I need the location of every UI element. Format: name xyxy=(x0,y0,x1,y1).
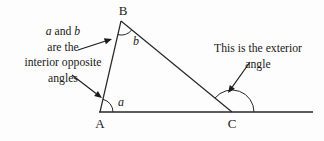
annotation-line: a and b xyxy=(46,25,81,38)
annotation-line: interior opposite xyxy=(25,56,102,69)
pointer-shaft xyxy=(78,41,105,50)
arrowhead-icon xyxy=(228,85,235,93)
angle-label-b: b xyxy=(133,34,139,48)
interior-opposite-angles-note: a and bare theinterior oppositeangles xyxy=(25,25,102,85)
angle-b-arc xyxy=(118,30,132,35)
annotation-line: are the xyxy=(47,41,78,54)
annotation-text-layer: a and bare theinterior oppositeanglesThi… xyxy=(25,25,303,85)
angle-a-arc xyxy=(103,99,113,112)
arrowhead-icon xyxy=(104,38,112,44)
vertex-label-c: C xyxy=(228,116,237,131)
exterior-angle-arc xyxy=(215,90,254,112)
pointer-to-exterior-angle xyxy=(228,62,250,93)
pointer-to-angle-b xyxy=(78,38,112,50)
pointer-shaft xyxy=(232,62,250,87)
arrowhead-icon xyxy=(94,91,102,98)
geometry-diagram: A B C a b a and bare theinterior opposit… xyxy=(0,0,324,141)
annotation-line: angles xyxy=(48,72,78,85)
vertex-label-b: B xyxy=(119,3,128,18)
triangle-exterior-angle-figure: A B C a b a and bare theinterior opposit… xyxy=(0,0,324,141)
annotation-line: This is the exterior xyxy=(214,42,302,55)
exterior-angle-note: This is the exteriorangle xyxy=(214,42,302,71)
vertex-label-a: A xyxy=(95,116,105,131)
angle-label-a: a xyxy=(118,95,124,109)
pointer-to-angle-a xyxy=(72,75,102,98)
